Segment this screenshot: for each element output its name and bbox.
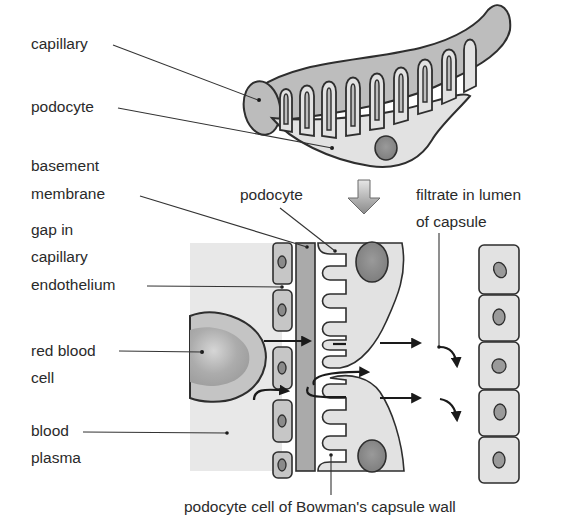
label-gap-line3: endothelium (31, 274, 115, 296)
label-gap-line1: gap in (31, 219, 73, 241)
basement-membrane (296, 243, 315, 471)
label-podocyte-top: podocyte (31, 96, 94, 118)
label-rbc-line2: cell (31, 367, 54, 389)
podocyte-upper (318, 242, 404, 368)
label-rbc-line1: red blood (31, 340, 96, 362)
label-plasma-line2: plasma (31, 447, 81, 469)
label-filtrate-line1: filtrate in lumen (416, 184, 521, 206)
label-podocyte-detail: podocyte (240, 184, 303, 206)
label-capillary: capillary (31, 33, 88, 55)
label-filtrate-line2: of capsule (416, 211, 487, 233)
label-gap-line2: capillary (31, 246, 88, 268)
label-plasma-line1: blood (31, 420, 69, 442)
label-basement-line2: membrane (31, 183, 105, 205)
diagram-canvas: capillary podocyte basement membrane gap… (0, 0, 568, 526)
label-basement-line1: basement (31, 155, 99, 177)
label-bottom-caption: podocyte cell of Bowman's capsule wall (184, 496, 456, 518)
down-arrow-icon (348, 180, 380, 214)
capillary-leader-line (113, 45, 258, 100)
